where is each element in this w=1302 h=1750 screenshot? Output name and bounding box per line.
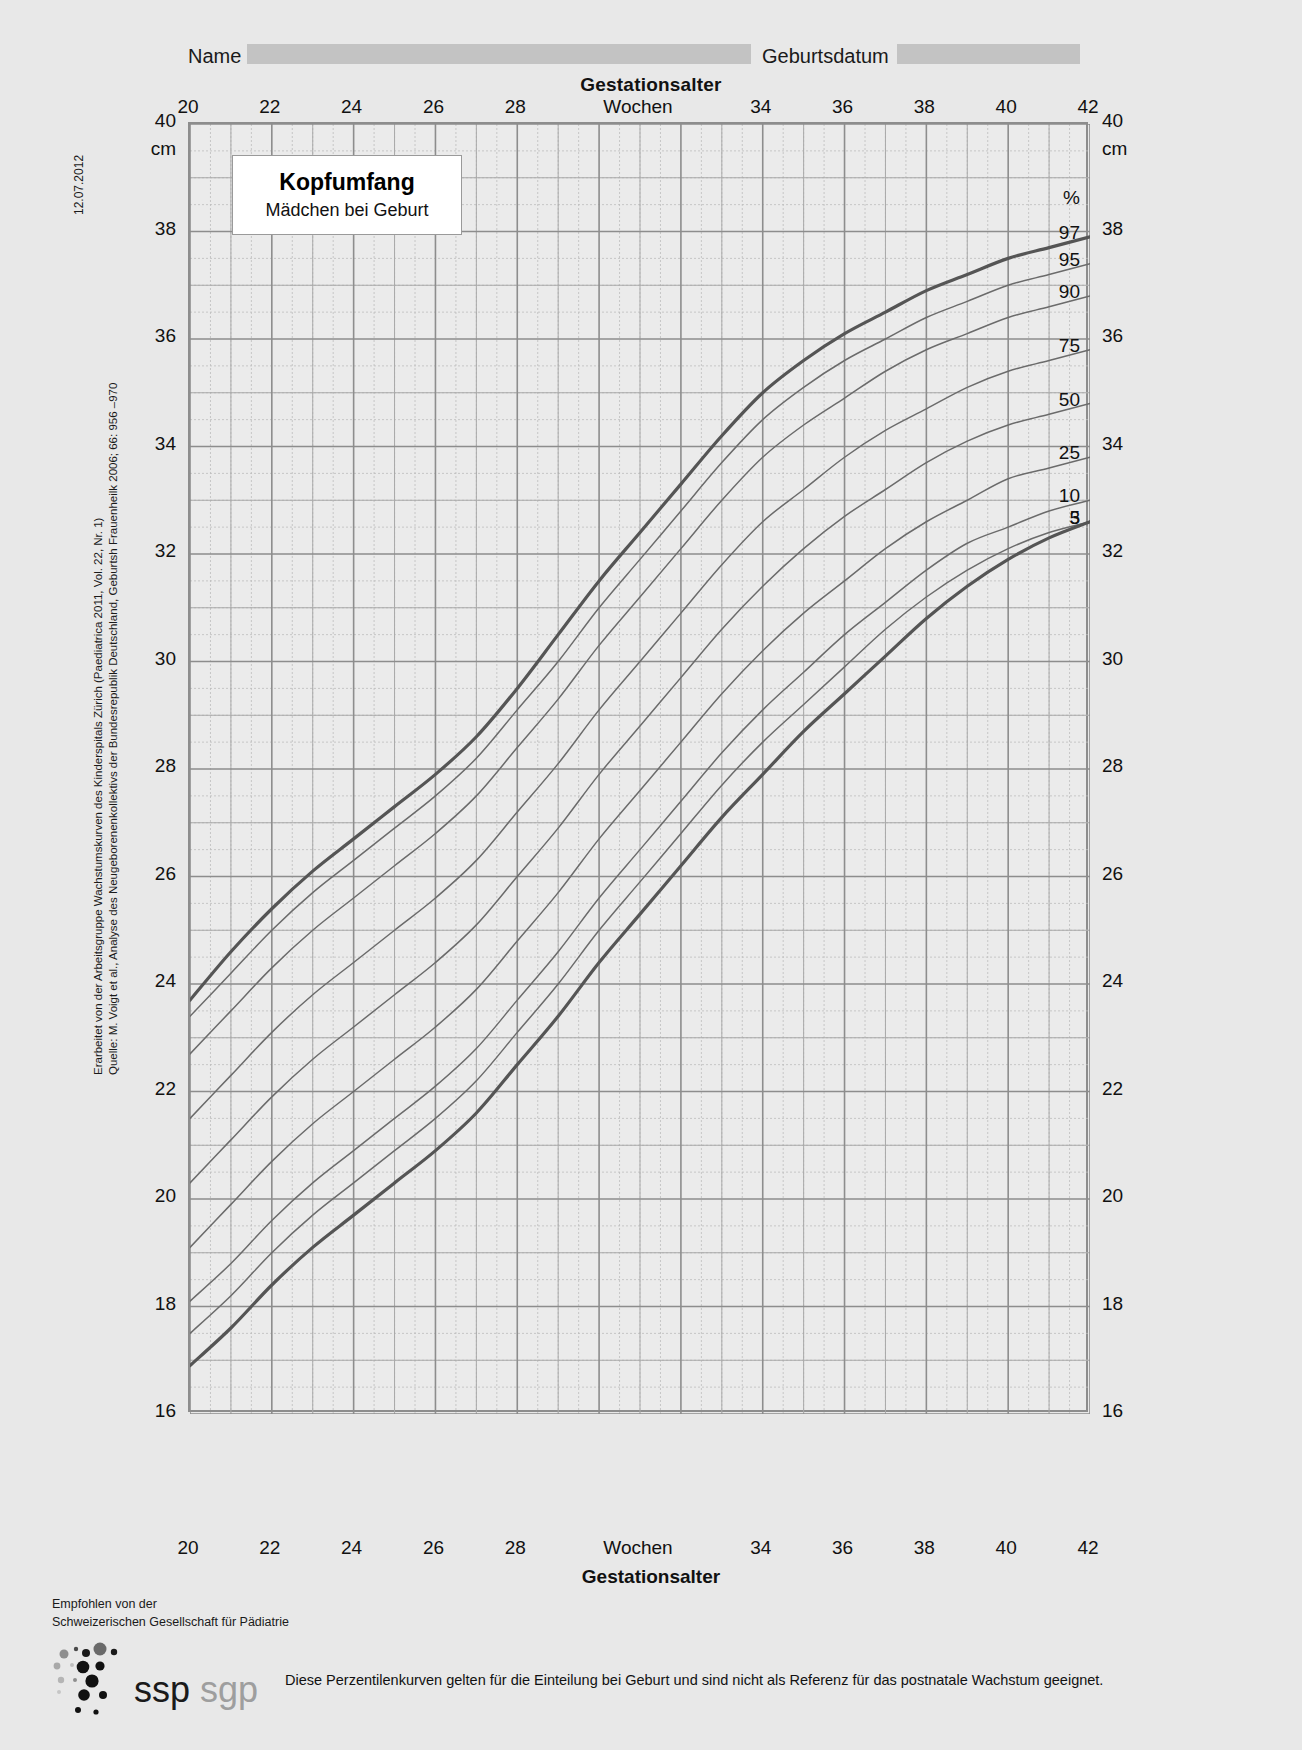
x-tick-bottom-40: 40 — [976, 1537, 1036, 1559]
percentile-label-97: 97 — [1040, 222, 1080, 244]
y-tick-right-24: 24 — [1102, 970, 1152, 992]
x-tick-bottom-22: 22 — [240, 1537, 300, 1559]
x-tick-bottom-26: 26 — [403, 1537, 463, 1559]
y-tick-right-22: 22 — [1102, 1078, 1152, 1100]
x-tick-top-24: 24 — [322, 96, 382, 118]
chart-title-box: Kopfumfang Mädchen bei Geburt — [232, 155, 462, 235]
x-tick-top-28: 28 — [485, 96, 545, 118]
x-tick-top-40: 40 — [976, 96, 1036, 118]
x-tick-top-wochen: Wochen — [578, 96, 698, 118]
recommended-by-line2: Schweizerischen Gesellschaft für Pädiatr… — [52, 1613, 289, 1631]
y-tick-left-20: 20 — [126, 1185, 176, 1207]
chart-title-sub: Mädchen bei Geburt — [265, 200, 428, 221]
x-tick-bottom-38: 38 — [894, 1537, 954, 1559]
logo-text-ssp: ssp — [134, 1669, 190, 1710]
birthdate-input[interactable] — [897, 44, 1080, 64]
source-note-line2: Quelle: M. Voigt et al., Analyse des Neu… — [107, 383, 119, 1075]
y-tick-left-18: 18 — [126, 1293, 176, 1315]
y-tick-right-20: 20 — [1102, 1185, 1152, 1207]
y-tick-right-34: 34 — [1102, 433, 1152, 455]
x-tick-bottom-20: 20 — [158, 1537, 218, 1559]
revision-date: 12.07.2012 — [72, 155, 86, 215]
y-tick-left-28: 28 — [126, 755, 176, 777]
y-tick-right-26: 26 — [1102, 863, 1152, 885]
name-input[interactable] — [247, 44, 751, 64]
x-tick-bottom-wochen: Wochen — [578, 1537, 698, 1559]
percentile-label-90: 90 — [1040, 281, 1080, 303]
logo-dots-icon — [54, 1643, 118, 1715]
percentile-label-3: 3 — [1040, 507, 1080, 529]
y-tick-right-40: 40 — [1102, 110, 1152, 132]
x-tick-top-22: 22 — [240, 96, 300, 118]
y-tick-right-18: 18 — [1102, 1293, 1152, 1315]
name-label: Name — [188, 45, 241, 68]
y-tick-left-40: 40 — [126, 110, 176, 132]
percentile-label-percent: % — [1040, 187, 1080, 209]
y-tick-right-32: 32 — [1102, 540, 1152, 562]
birthdate-label: Geburtsdatum — [762, 45, 889, 68]
y-tick-left-16: 16 — [126, 1400, 176, 1422]
ssp-sgp-logo: ssp sgp — [50, 1640, 280, 1722]
footer-disclaimer: Diese Perzentilenkurven gelten für die E… — [285, 1672, 1103, 1688]
percentile-label-95: 95 — [1040, 249, 1080, 271]
recommended-by-note: Empfohlen von der Schweizerischen Gesell… — [52, 1595, 289, 1631]
y-tick-right-38: 38 — [1102, 218, 1152, 240]
y-unit-left: cm — [126, 138, 176, 160]
x-tick-bottom-28: 28 — [485, 1537, 545, 1559]
x-tick-top-26: 26 — [403, 96, 463, 118]
x-tick-bottom-42: 42 — [1058, 1537, 1118, 1559]
x-axis-title-top: Gestationsalter — [0, 74, 1302, 96]
y-tick-right-28: 28 — [1102, 755, 1152, 777]
y-tick-right-30: 30 — [1102, 648, 1152, 670]
x-tick-bottom-24: 24 — [322, 1537, 382, 1559]
y-tick-right-36: 36 — [1102, 325, 1152, 347]
percentile-curves-svg — [190, 124, 1090, 1414]
y-tick-left-32: 32 — [126, 540, 176, 562]
x-tick-top-38: 38 — [894, 96, 954, 118]
y-tick-left-22: 22 — [126, 1078, 176, 1100]
x-tick-bottom-36: 36 — [813, 1537, 873, 1559]
y-unit-right: cm — [1102, 138, 1152, 160]
y-tick-left-34: 34 — [126, 433, 176, 455]
percentile-label-25: 25 — [1040, 442, 1080, 464]
chart-plot-area — [188, 122, 1088, 1412]
x-tick-top-36: 36 — [813, 96, 873, 118]
chart-title-main: Kopfumfang — [279, 169, 414, 196]
x-tick-top-34: 34 — [731, 96, 791, 118]
y-tick-left-26: 26 — [126, 863, 176, 885]
x-tick-bottom-34: 34 — [731, 1537, 791, 1559]
growth-chart-page: Name Geburtsdatum Gestationsalter Gestat… — [0, 0, 1302, 1750]
logo-graphic: ssp sgp — [50, 1640, 280, 1722]
logo-text-sgp: sgp — [200, 1669, 258, 1710]
y-tick-left-36: 36 — [126, 325, 176, 347]
recommended-by-line1: Empfohlen von der — [52, 1595, 289, 1613]
source-note-line1: Erarbeitet von der Arbeitsgruppe Wachstu… — [92, 518, 104, 1075]
percentile-label-10: 10 — [1040, 485, 1080, 507]
y-tick-right-16: 16 — [1102, 1400, 1152, 1422]
percentile-label-75: 75 — [1040, 335, 1080, 357]
y-tick-left-38: 38 — [126, 218, 176, 240]
y-tick-left-30: 30 — [126, 648, 176, 670]
percentile-label-50: 50 — [1040, 389, 1080, 411]
y-tick-left-24: 24 — [126, 970, 176, 992]
x-axis-title-bottom: Gestationsalter — [0, 1566, 1302, 1588]
